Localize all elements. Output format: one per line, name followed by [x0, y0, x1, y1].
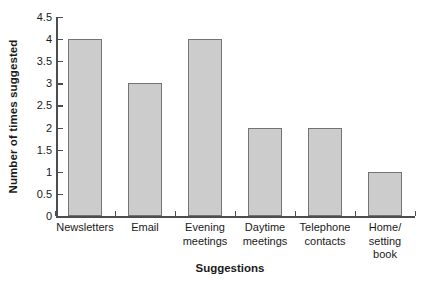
bar-chart-figure: Number of times suggested 00.511.522.533…	[0, 0, 435, 292]
y-axis-tick-label: 1	[26, 166, 52, 178]
y-axis-tick-label: 3.5	[26, 55, 52, 67]
x-axis-category-label-line: meetings	[235, 235, 295, 249]
y-axis-tick	[58, 172, 63, 173]
y-axis-tick-label: 4.5	[26, 11, 52, 23]
y-axis-tick	[58, 128, 63, 129]
y-axis-tick-labels: 00.511.522.533.544.5	[24, 0, 52, 292]
x-axis-title: Suggestions	[0, 262, 435, 274]
y-axis-tick	[58, 17, 63, 18]
x-axis-category-label: Eveningmeetings	[175, 221, 235, 248]
y-axis-tick-label: 2	[26, 122, 52, 134]
bar	[248, 128, 282, 216]
x-axis-category-label: Home/settingbook	[355, 221, 415, 262]
x-axis-category-label-line: Newsletters	[55, 221, 115, 235]
x-axis-category-label-line: book	[355, 248, 415, 262]
bar	[128, 83, 162, 216]
x-axis-category-label-line: Daytime	[235, 221, 295, 235]
bar	[68, 39, 102, 216]
y-axis-tick-label: 1.5	[26, 144, 52, 156]
y-axis-tick	[58, 150, 63, 151]
y-axis-tick-label: 4	[26, 33, 52, 45]
x-axis-category-label-line: setting	[355, 235, 415, 249]
y-axis-tick-label: 2.5	[26, 99, 52, 111]
x-axis-tick	[415, 211, 416, 216]
x-axis-category-label-line: Email	[115, 221, 175, 235]
x-axis-category-label: Telephonecontacts	[295, 221, 355, 248]
x-axis-line	[56, 216, 415, 218]
y-axis-tick-label: 0.5	[26, 188, 52, 200]
x-axis-category-label-line: Telephone	[295, 221, 355, 235]
y-axis-tick	[58, 39, 63, 40]
bar-series	[56, 17, 415, 216]
x-axis-category-label-line: Home/	[355, 221, 415, 235]
bar	[368, 172, 402, 216]
bar	[308, 128, 342, 216]
x-axis-category-label: Email	[115, 221, 175, 235]
bar	[188, 39, 222, 216]
plot-area	[56, 17, 415, 216]
y-axis-tick	[58, 105, 63, 106]
y-axis-tick-label: 0	[26, 210, 52, 222]
y-axis-tick-label: 3	[26, 77, 52, 89]
y-axis-tick	[58, 83, 63, 84]
x-axis-category-label: Daytimemeetings	[235, 221, 295, 248]
x-axis-category-label-line: contacts	[295, 235, 355, 249]
y-axis-tick	[58, 194, 63, 195]
x-axis-category-label: Newsletters	[55, 221, 115, 235]
y-axis-tick	[58, 216, 63, 217]
y-axis-tick	[58, 61, 63, 62]
x-axis-category-label-line: meetings	[175, 235, 235, 249]
x-axis-category-label-line: Evening	[175, 221, 235, 235]
